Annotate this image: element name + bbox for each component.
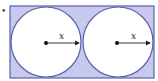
left-circle: x bbox=[11, 7, 81, 77]
right-circle: x bbox=[83, 7, 153, 77]
two-circles-in-rectangle-diagram: • x x bbox=[0, 0, 158, 81]
right-radius-label: x bbox=[131, 31, 136, 41]
bullet-marker: • bbox=[1, 6, 6, 16]
left-radius-label: x bbox=[59, 31, 64, 41]
